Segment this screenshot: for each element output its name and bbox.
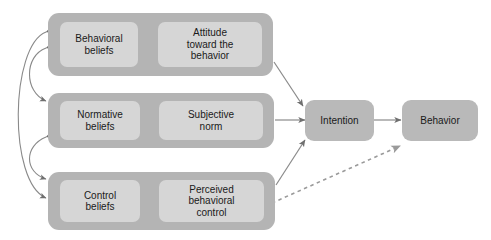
node-normative-beliefs: Normative beliefs [60,101,140,140]
connector-attitude-to-intention [274,62,303,106]
connector-perceived-control-to-intention [276,140,305,185]
node-behavior: Behavior [402,100,478,141]
node-intention: Intention [305,100,374,141]
node-behavioral-beliefs: Behavioral beliefs [60,22,138,67]
connector-behavioral-normative-correlation [30,48,47,101]
node-control-beliefs: Control beliefs [60,180,140,222]
node-perceived-behavioral-control: Perceived behavioral control [159,180,264,222]
connector-perceived-control-to-behavior [272,146,400,203]
connector-normative-control-correlation [30,137,47,179]
node-attitude-toward-the-behavior: Attitude toward the behavior [158,22,262,67]
node-subjective-norm: Subjective norm [159,101,263,140]
diagram-canvas: Behavioral beliefs Attitude toward the b… [0,0,491,240]
connector-behavioral-control-correlation [18,32,46,198]
